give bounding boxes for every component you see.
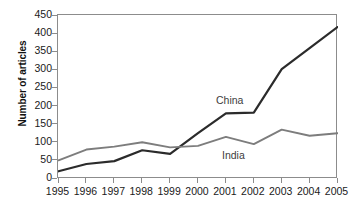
y-tick-label: 0: [26, 172, 52, 182]
y-tick-label: 450: [26, 9, 52, 19]
x-tick-mark: [197, 178, 198, 183]
x-tick-mark: [309, 178, 310, 183]
y-tick-label: 300: [26, 63, 52, 73]
y-tick-label: 400: [26, 27, 52, 37]
y-tick-mark: [52, 87, 57, 88]
y-tick-label: 50: [26, 154, 52, 164]
y-tick-mark: [52, 51, 57, 52]
x-tick-mark: [253, 178, 254, 183]
x-tick-mark: [113, 178, 114, 183]
y-tick-mark: [52, 159, 57, 160]
x-tick-mark: [281, 178, 282, 183]
x-tick-mark: [141, 178, 142, 183]
x-tick-mark: [58, 178, 59, 183]
x-tick-label: 2005: [320, 185, 354, 197]
x-tick-mark: [337, 178, 338, 183]
x-tick-mark: [225, 178, 226, 183]
y-tick-mark: [52, 105, 57, 106]
y-tick-mark: [52, 15, 57, 16]
y-tick-mark: [52, 123, 57, 124]
y-tick-label: 250: [26, 81, 52, 91]
plot-area: [57, 14, 337, 178]
y-tick-mark: [52, 141, 57, 142]
y-tick-mark: [52, 178, 57, 179]
y-tick-label: 150: [26, 118, 52, 128]
y-tick-mark: [52, 69, 57, 70]
x-tick-mark: [85, 178, 86, 183]
y-axis-tick-labels: 050100150200250300350400450: [24, 0, 52, 204]
series-label-china: China: [216, 94, 243, 106]
y-tick-label: 100: [26, 136, 52, 146]
x-tick-mark: [169, 178, 170, 183]
y-tick-mark: [52, 33, 57, 34]
y-tick-label: 200: [26, 100, 52, 110]
y-tick-label: 350: [26, 45, 52, 55]
chart-figure: Number of articles 050100150200250300350…: [0, 0, 354, 204]
series-canvas: [58, 15, 338, 179]
series-line-china: [59, 27, 338, 171]
series-label-india: India: [222, 149, 245, 161]
